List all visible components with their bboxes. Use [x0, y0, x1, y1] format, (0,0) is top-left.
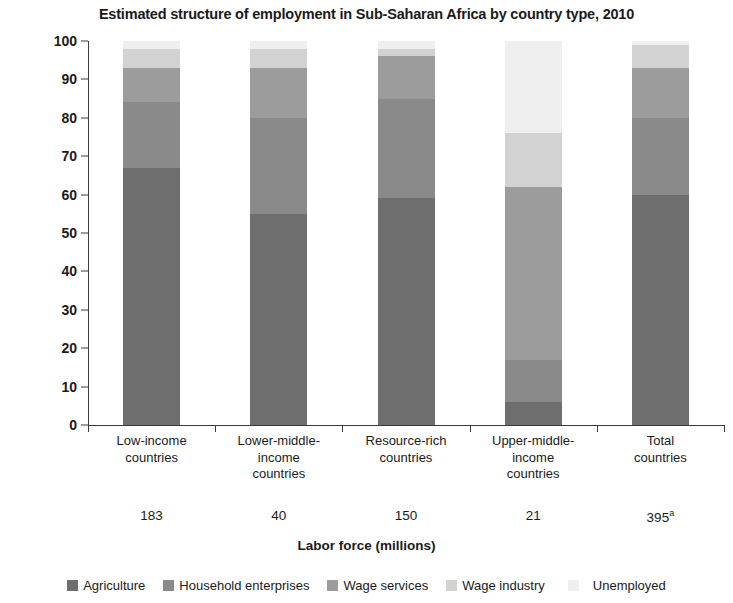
- bar-group[interactable]: [378, 41, 435, 425]
- y-axis-tick-mark: [81, 425, 88, 426]
- bar-segment[interactable]: [505, 41, 562, 133]
- y-axis-tick-label: 80: [17, 110, 88, 126]
- labor-force-value: 395a: [597, 508, 724, 525]
- category-label-line: income: [215, 450, 342, 467]
- y-axis-tick-label: 20: [17, 340, 88, 356]
- x-axis-line: [88, 425, 725, 426]
- y-axis-tick-label: 100: [17, 33, 88, 49]
- y-axis-tick-mark: [81, 309, 88, 310]
- bar-segment[interactable]: [632, 45, 689, 68]
- x-axis-tick-mark: [470, 425, 471, 432]
- category-label-line: Total: [597, 433, 724, 450]
- legend-label: Unemployed: [593, 578, 666, 593]
- bar-segment[interactable]: [250, 214, 307, 425]
- bar-segment[interactable]: [505, 402, 562, 425]
- legend-item[interactable]: Wage industry: [446, 578, 545, 593]
- bar-segment[interactable]: [378, 99, 435, 199]
- x-axis-tick-mark: [597, 425, 598, 432]
- bar-segment[interactable]: [378, 49, 435, 57]
- category-label-line: countries: [88, 450, 215, 467]
- bar-segment[interactable]: [632, 68, 689, 118]
- y-axis-tick-mark: [81, 41, 88, 42]
- x-axis-category-label: Totalcountries: [597, 433, 724, 466]
- x-axis-category-label: Resource-richcountries: [342, 433, 469, 466]
- stacked-bar[interactable]: [632, 41, 689, 425]
- category-label-line: countries: [342, 450, 469, 467]
- y-axis-tick-mark: [81, 386, 88, 387]
- x-axis-category-label: Lower-middle-incomecountries: [215, 433, 342, 483]
- category-label-line: Upper-middle-: [470, 433, 597, 450]
- x-axis-category-label: Low-incomecountries: [88, 433, 215, 466]
- y-axis-tick-label: 30: [17, 302, 88, 318]
- category-label-line: Resource-rich: [342, 433, 469, 450]
- y-axis-tick-mark: [81, 79, 88, 80]
- chart-title: Estimated structure of employment in Sub…: [0, 6, 733, 22]
- category-label-line: countries: [470, 466, 597, 483]
- legend-item[interactable]: Unemployed: [568, 578, 666, 593]
- bar-segment[interactable]: [123, 102, 180, 167]
- legend-swatch-icon: [568, 580, 579, 591]
- bar-segment[interactable]: [123, 49, 180, 68]
- labor-force-value: 183: [88, 508, 215, 523]
- bar-segment[interactable]: [505, 187, 562, 360]
- stacked-bar[interactable]: [505, 41, 562, 425]
- legend-item[interactable]: Household enterprises: [163, 578, 309, 593]
- bar-segment[interactable]: [505, 360, 562, 402]
- labor-force-value: 21: [470, 508, 597, 523]
- y-axis-tick-label: 90: [17, 71, 88, 87]
- legend-item[interactable]: Wage services: [327, 578, 428, 593]
- category-label-line: income: [470, 450, 597, 467]
- bar-segment[interactable]: [250, 118, 307, 214]
- y-axis-tick-mark: [81, 156, 88, 157]
- y-axis-tick-mark: [81, 348, 88, 349]
- bar-segment[interactable]: [505, 133, 562, 187]
- category-label-line: Low-income: [88, 433, 215, 450]
- legend-label: Household enterprises: [179, 578, 309, 593]
- bar-segment[interactable]: [250, 68, 307, 118]
- legend-swatch-icon: [446, 580, 457, 591]
- stacked-bar[interactable]: [378, 41, 435, 425]
- y-axis-tick-mark: [81, 194, 88, 195]
- plot-area: 0102030405060708090100: [88, 41, 724, 425]
- bar-series-container: [88, 41, 724, 425]
- x-axis-label: Labor force (millions): [0, 538, 733, 553]
- bar-segment[interactable]: [378, 41, 435, 49]
- bar-segment[interactable]: [632, 41, 689, 45]
- y-axis-tick-label: 60: [17, 187, 88, 203]
- bar-segment[interactable]: [250, 49, 307, 68]
- bar-segment[interactable]: [378, 56, 435, 98]
- chart-legend: AgricultureHousehold enterprisesWage ser…: [0, 578, 733, 593]
- bar-segment[interactable]: [632, 195, 689, 425]
- bar-segment[interactable]: [378, 198, 435, 425]
- stacked-bar[interactable]: [123, 41, 180, 425]
- labor-force-value: 40: [215, 508, 342, 523]
- bar-group[interactable]: [632, 41, 689, 425]
- legend-swatch-icon: [163, 580, 174, 591]
- y-axis-tick-label: 0: [17, 417, 88, 433]
- y-axis-tick-label: 10: [17, 379, 88, 395]
- legend-item[interactable]: Agriculture: [67, 578, 145, 593]
- legend-label: Wage services: [343, 578, 428, 593]
- bar-group[interactable]: [250, 41, 307, 425]
- legend-label: Agriculture: [83, 578, 145, 593]
- x-axis-tick-mark: [215, 425, 216, 432]
- footnote-marker: a: [669, 508, 674, 518]
- y-axis-tick-mark: [81, 117, 88, 118]
- bar-group[interactable]: [123, 41, 180, 425]
- bar-segment[interactable]: [250, 41, 307, 49]
- x-axis-tick-mark: [342, 425, 343, 432]
- bar-segment[interactable]: [123, 41, 180, 49]
- bar-group[interactable]: [505, 41, 562, 425]
- category-label-line: Lower-middle-: [215, 433, 342, 450]
- bar-segment[interactable]: [123, 68, 180, 103]
- y-axis-tick-label: 70: [17, 148, 88, 164]
- category-label-line: countries: [597, 450, 724, 467]
- x-axis-tick-mark: [724, 425, 725, 432]
- labor-force-value: 150: [342, 508, 469, 523]
- stacked-bar[interactable]: [250, 41, 307, 425]
- category-label-line: countries: [215, 466, 342, 483]
- legend-swatch-icon: [67, 580, 78, 591]
- x-axis-category-label: Upper-middle-incomecountries: [470, 433, 597, 483]
- bar-segment[interactable]: [632, 118, 689, 195]
- bar-segment[interactable]: [123, 168, 180, 425]
